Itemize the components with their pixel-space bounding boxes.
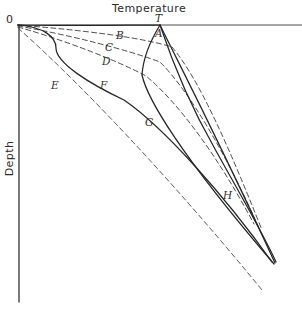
label-c: C <box>105 41 113 53</box>
x-axis-title: Temperature <box>112 2 186 15</box>
curve-c <box>18 26 258 226</box>
origin-label: 0 <box>6 13 13 26</box>
label-a: A <box>155 27 163 39</box>
curve-a <box>18 25 275 263</box>
curve-f <box>18 25 272 262</box>
temperature-depth-diagram: Temperature Depth 0 T A B C D E F G H <box>0 0 302 309</box>
label-d: D <box>102 55 110 67</box>
diagram-canvas <box>0 0 302 309</box>
curve-d <box>18 27 254 224</box>
y-axis-title: Depth <box>3 141 16 177</box>
label-g: G <box>145 116 153 128</box>
label-h: H <box>223 189 232 201</box>
label-b: B <box>116 29 124 41</box>
label-e: E <box>51 79 59 91</box>
label-f: F <box>100 79 107 91</box>
label-t: T <box>155 12 162 24</box>
curve-g <box>142 25 274 264</box>
